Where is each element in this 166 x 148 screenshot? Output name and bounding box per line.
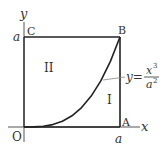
x-tick-a-label: a (115, 132, 122, 146)
equation-denominator-exponent: 2 (153, 77, 157, 85)
x-axis-label: x (141, 119, 149, 134)
region-I-label: I (107, 93, 112, 107)
y-axis-label: y (19, 6, 28, 21)
region-II-label: II (44, 61, 54, 75)
equation-leader-line (103, 77, 125, 80)
equation-numerator: x (146, 64, 153, 77)
equation-denominator: a (146, 78, 153, 91)
point-C-label: C (27, 25, 35, 38)
point-A-label: A (121, 116, 131, 129)
equation-numerator-exponent: 3 (153, 62, 157, 70)
curve-equation: y= x 3 a 2 (125, 62, 159, 91)
diagram-canvas: y x a a C B A O II I y= x 3 a 2 (0, 0, 166, 148)
cubic-curve (24, 37, 120, 127)
y-tick-a-label: a (13, 30, 20, 44)
point-B-label: B (118, 24, 126, 37)
origin-label: O (12, 130, 22, 144)
equation-lhs: y= (125, 70, 143, 84)
